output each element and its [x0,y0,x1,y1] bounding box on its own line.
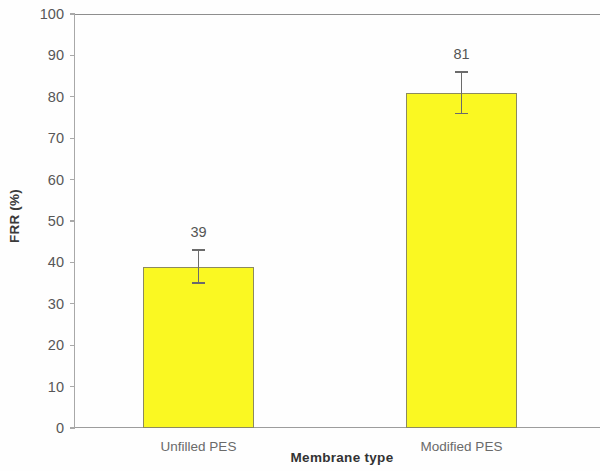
y-tick-mark [70,386,75,387]
y-tick-mark [70,13,75,14]
y-tick-label: 20 [18,338,64,353]
data-label-unfilled-pes: 39 [159,225,239,240]
y-tick-label: 30 [18,297,64,312]
data-label-modified-pes: 81 [422,47,502,62]
x-tick-label-unfilled-pes: Unfilled PES [129,440,269,454]
y-tick-label: 100 [18,7,64,22]
y-tick-mark [70,303,75,304]
y-tick-label: 40 [18,255,64,270]
error-bar-stem [198,250,199,283]
error-bar-cap-lower [455,113,468,115]
y-tick-mark [70,345,75,346]
y-tick-mark [70,179,75,180]
y-tick-mark [70,262,75,263]
y-tick-mark [70,96,75,97]
x-axis-title: Membrane type [268,450,416,465]
y-tick-label: 80 [18,90,64,105]
y-tick-mark [70,427,75,428]
y-tick-label: 50 [18,214,64,229]
bar-unfilled-pes [143,267,254,428]
y-tick-label: 10 [18,380,64,395]
y-tick-mark [70,220,75,221]
bar-modified-pes [406,93,517,428]
error-bar-cap-upper [455,71,468,73]
y-tick-label: 90 [18,48,64,63]
error-bar-stem [461,72,462,113]
error-bar-cap-upper [192,249,205,251]
error-bar-cap-lower [192,282,205,284]
y-tick-mark [70,55,75,56]
axis-line-top [74,14,600,15]
y-tick-label: 70 [18,131,64,146]
chart-figure: FRR (%) 0102030405060708090100 3981 Unfi… [0,0,600,471]
y-tick-label: 60 [18,173,64,188]
y-tick-mark [70,138,75,139]
y-tick-label: 0 [18,421,64,436]
plot-area [74,14,600,428]
